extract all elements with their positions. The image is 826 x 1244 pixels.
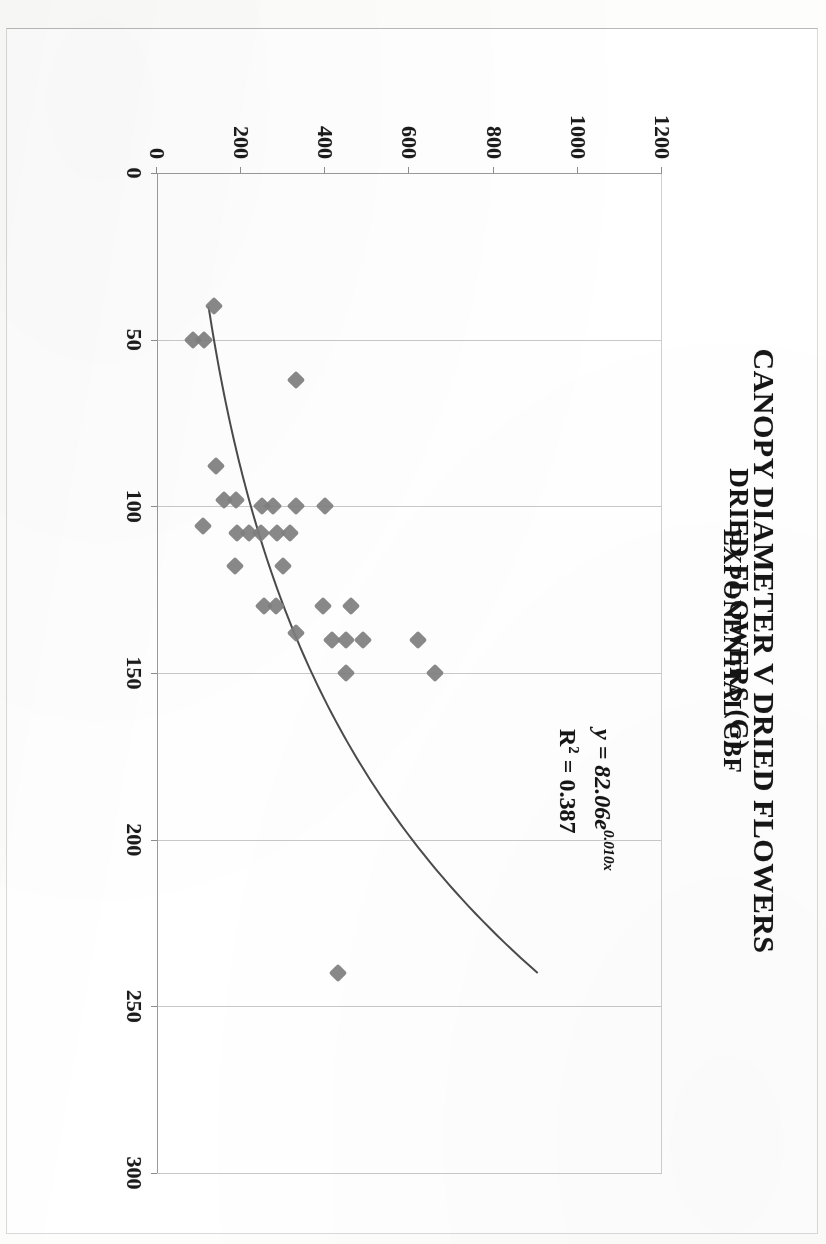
x-axis-tick-label: 200 <box>121 823 147 856</box>
r-squared-line: R2 = 0.387 <box>550 729 585 871</box>
gridline-vertical <box>157 340 662 341</box>
chart-frame: CANOPY DIAMETER V DRIED FLOWERS EXPONENT… <box>6 28 818 1234</box>
plot-area: DRIED FLOWERS (G) 020040060080010001200 … <box>157 173 662 1173</box>
x-axis-tick-label: 300 <box>121 1157 147 1190</box>
x-axis-tick-label: 50 <box>121 329 147 351</box>
gridline-vertical <box>157 1173 662 1174</box>
y-axis-tick-label: 0 <box>144 148 170 159</box>
y-axis-tick-label: 1200 <box>649 115 675 159</box>
x-axis-tick-label: 150 <box>121 657 147 690</box>
y-axis-tick-label: 600 <box>397 126 423 159</box>
trendline-equation-label: y = 82.06e0.010x R2 = 0.387 <box>550 729 620 871</box>
x-axis-tick-label: 250 <box>121 990 147 1023</box>
x-axis-line <box>157 173 158 1173</box>
rotated-chart-container: CANOPY DIAMETER V DRIED FLOWERS EXPONENT… <box>40 61 800 1241</box>
y-axis-tick-label: 200 <box>228 126 254 159</box>
equation-line: y = 82.06e0.010x <box>585 729 620 871</box>
x-axis-tick-label: 100 <box>121 490 147 523</box>
y-axis-line <box>157 173 662 174</box>
gridline-horizontal <box>661 173 662 1173</box>
x-axis-tick <box>151 1173 157 1174</box>
y-axis-title: DRIED FLOWERS (G) <box>723 109 754 1109</box>
r-squared-value: = 0.387 <box>555 754 581 834</box>
gridline-vertical <box>157 673 662 674</box>
gridline-vertical <box>157 1006 662 1007</box>
scanned-page: CANOPY DIAMETER V DRIED FLOWERS EXPONENT… <box>0 0 826 1244</box>
r-squared-superscript: 2 <box>566 746 582 753</box>
x-axis-tick-label: 0 <box>121 168 147 179</box>
y-axis-tick-label: 1000 <box>565 115 591 159</box>
y-axis-tick-label: 400 <box>312 126 338 159</box>
y-axis-tick-label: 800 <box>481 126 507 159</box>
r-squared-symbol: R <box>555 729 581 746</box>
equation-exponent: 0.010x <box>601 830 617 871</box>
equation-text: y = 82.06e <box>590 729 616 830</box>
